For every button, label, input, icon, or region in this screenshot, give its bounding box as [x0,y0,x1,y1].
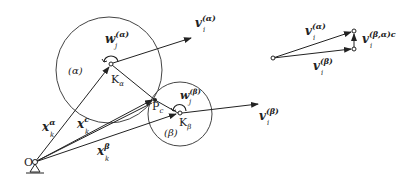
k-alpha-point [109,62,113,66]
vd-v-alpha-label: v(α) [305,21,326,38]
vd-relative-label: v(β,α)c [362,29,396,46]
vd-relative-sub: i [370,42,372,50]
origin-label: O [24,156,33,169]
k-beta-point [178,111,182,115]
vd-origin-point [271,56,275,60]
velocity-alpha-label: v(α) [195,13,216,30]
vd-beta-tip [352,47,356,51]
vd-v-alpha [273,32,351,58]
velocity-vector-beta [182,104,258,113]
vd-alpha-tip [352,29,356,33]
velocity-vector-alpha [113,38,191,63]
velocity-beta-sub: i [267,119,269,127]
position-alpha-sub: k [50,131,54,139]
velocity-alpha-sub: i [203,26,205,34]
vd-v-beta-sub: i [321,69,323,77]
contact-point-label: Pc [152,100,163,115]
vd-v-alpha-sub: i [313,34,315,42]
vd-v-beta [273,49,351,58]
k-beta-label: Kβ [179,116,191,131]
body-alpha-label: (α) [68,65,83,76]
position-contact-sub: k [85,128,89,136]
body-beta-label: (β) [164,127,178,138]
position-beta-sub: k [105,155,109,163]
diagram-canvas: (α) (β) Kα Kβ Pc O w(α) j w(β) j v(α) i … [0,0,412,185]
k-alpha-label: Kα [111,73,124,88]
